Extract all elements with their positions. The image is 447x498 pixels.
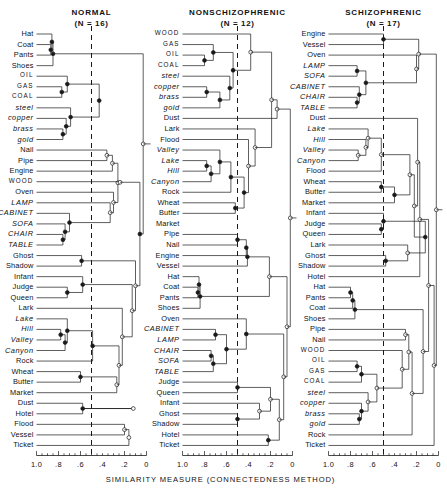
axis-tick-label: 0 [425, 460, 447, 469]
axis-tick-label: 0 [133, 460, 161, 469]
axis-caption: SIMILARITY MEASURE (CONNECTEDNESS METHOD… [0, 475, 441, 484]
axis-tick-label: 0 [279, 460, 307, 469]
